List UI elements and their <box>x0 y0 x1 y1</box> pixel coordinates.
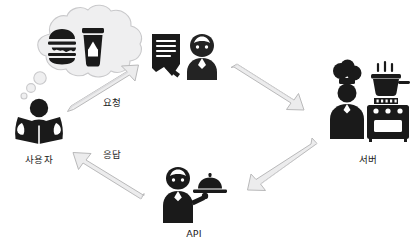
arrow-to-server <box>228 62 310 120</box>
node-api <box>160 165 228 225</box>
node-order-taker <box>150 32 224 82</box>
person-reading-book-icon <box>15 99 63 145</box>
node-api-label: API <box>160 228 228 239</box>
arrow-down-left-icon <box>248 138 318 191</box>
arrow-response-label: 응답 <box>103 147 121 161</box>
node-server <box>322 60 414 142</box>
node-user <box>8 96 70 148</box>
order-notepad-icon <box>152 34 180 78</box>
diagram-canvas: 사용자 <box>0 0 419 252</box>
arrow-to-api <box>240 134 320 196</box>
waitress-icon <box>187 34 217 80</box>
arrow-request <box>65 60 145 118</box>
stove-with-pot-icon <box>367 62 410 142</box>
arrow-down-right-icon <box>231 64 304 110</box>
node-server-label: 서버 <box>322 152 414 166</box>
arrow-request-label: 요청 <box>103 95 121 109</box>
node-user-label: 사용자 <box>8 152 70 166</box>
waitress-serving-tray-icon <box>163 167 227 223</box>
chef-icon <box>330 60 364 140</box>
